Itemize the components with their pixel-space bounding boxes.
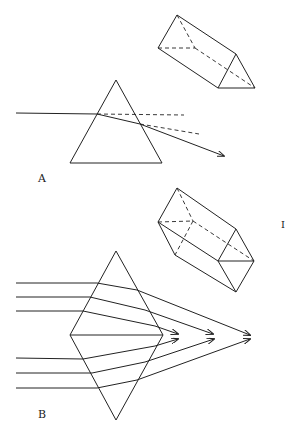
prism-3d-b: [158, 188, 254, 292]
double-prism-section-b: [16, 251, 250, 420]
label-a: A: [37, 172, 47, 185]
prism-diagram: A I B: [0, 0, 286, 435]
prism-3d-a: [158, 15, 255, 88]
prism-section-a: [16, 80, 224, 163]
side-mark: I: [281, 219, 285, 230]
label-b: B: [38, 408, 46, 421]
